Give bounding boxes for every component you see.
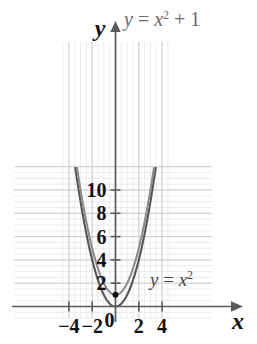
y-tick-label: 4 [97,249,107,271]
x-tick-label: 2 [134,315,144,337]
y-axis-name: y [92,15,106,41]
chart-canvas: −4−2024246810xyy = x2 + 1y = x2 [0,0,257,344]
x-tick-label: −2 [81,315,102,337]
label-x-squared: y = x2 [148,268,193,290]
x-axis-name: x [231,308,244,334]
x-tick-label: −4 [58,315,79,337]
markers-group [113,292,119,298]
annotations-group: y = x2 + 1y = x2 [122,8,200,290]
y-tick-label: 2 [97,272,107,294]
y-tick-label: 8 [97,202,107,224]
origin-label: 0 [105,309,115,331]
y-tick-label: 10 [87,179,107,201]
y-tick-label: 6 [97,226,107,248]
y-axis-arrowhead [110,21,120,32]
x-tick-label: 4 [157,315,167,337]
vertex-of-x-squared-plus-1 [113,292,119,298]
parabola-figure: −4−2024246810xyy = x2 + 1y = x2 [0,0,257,344]
label-x-squared-plus-1: y = x2 + 1 [122,8,200,31]
